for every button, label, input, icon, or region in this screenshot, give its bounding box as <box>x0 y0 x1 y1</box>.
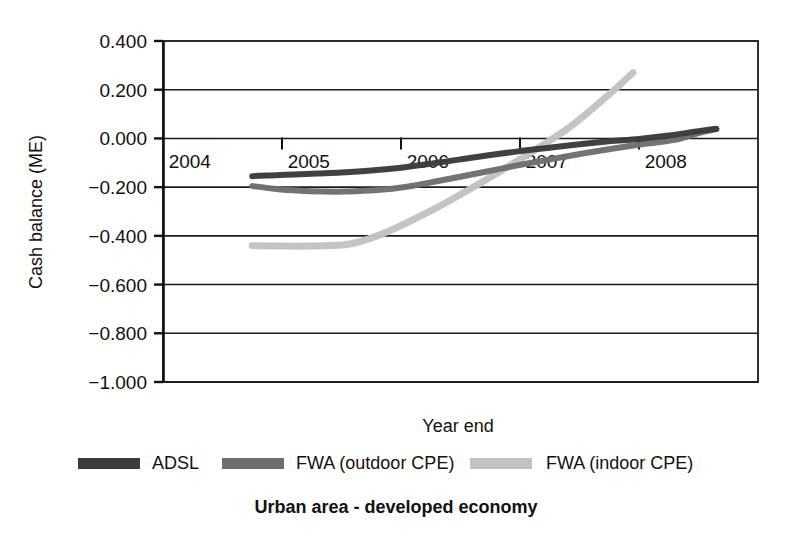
chart-canvas: 0.4000.2000.000−0.200−0.400−0.600−0.800−… <box>0 0 787 540</box>
x-axis-tick-label: 2008 <box>645 151 687 172</box>
y-axis-tick-label: −0.600 <box>88 275 147 296</box>
y-axis-tick-label: 0.200 <box>99 80 147 101</box>
y-axis-tick-label: −0.200 <box>88 177 147 198</box>
y-axis-tick-label: 0.400 <box>99 31 147 52</box>
y-axis-tick-label: 0.000 <box>99 128 147 149</box>
y-axis-tick-labels: 0.4000.2000.000−0.200−0.400−0.600−0.800−… <box>88 31 147 393</box>
legend-swatch-fwa-outdoor <box>222 458 284 469</box>
y-axis-ticks <box>154 41 163 382</box>
chart-figure: 0.4000.2000.000−0.200−0.400−0.600−0.800−… <box>0 0 787 540</box>
y-axis-title: Cash balance (ME) <box>26 135 46 289</box>
y-axis-tick-label: −0.400 <box>88 226 147 247</box>
legend-label: FWA (outdoor CPE) <box>296 453 454 473</box>
legend-swatch-fwa-indoor <box>470 458 532 469</box>
x-axis-tick-label: 2004 <box>169 151 212 172</box>
legend-swatch-adsl <box>78 458 140 469</box>
y-axis-tick-label: −0.800 <box>88 323 147 344</box>
legend-label: FWA (indoor CPE) <box>546 453 693 473</box>
y-axis-tick-label: −1.000 <box>88 372 147 393</box>
x-axis-tick-label: 2005 <box>288 151 330 172</box>
legend-label: ADSL <box>152 453 199 473</box>
chart-legend: ADSLFWA (outdoor CPE)FWA (indoor CPE) <box>78 453 693 473</box>
plot-area-background <box>163 41 758 382</box>
x-axis-title: Year end <box>422 416 493 436</box>
chart-title: Urban area - developed economy <box>254 497 537 517</box>
